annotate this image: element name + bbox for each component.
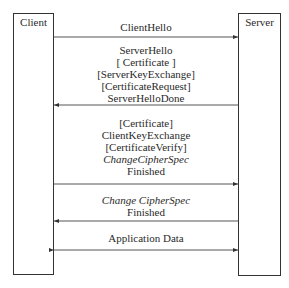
message-server-key-exchange: [ServerKeyExchange] — [54, 68, 238, 80]
message-server-hello-done: ServerHelloDone — [54, 92, 238, 104]
message-server-certificate: [ Certificate ] — [54, 56, 238, 68]
message-client-hello: ClientHello — [54, 21, 238, 33]
message-client-certificate: [Certificate] — [54, 117, 238, 129]
message-client-key-exchange: ClientKeyExchange — [54, 129, 238, 141]
message-server-change-cipher-spec: Change CipherSpec — [54, 194, 238, 206]
message-client-finished: Finished — [54, 165, 238, 177]
message-client-change-cipher-spec: ChangeCipherSpec — [54, 153, 238, 165]
message-labels: ClientHello ServerHello [ Certificate ] … — [54, 0, 238, 288]
message-application-data: Application Data — [54, 232, 238, 244]
message-server-finished: Finished — [54, 206, 238, 218]
message-certificate-verify: [CertificateVerify] — [54, 141, 238, 153]
message-server-hello: ServerHello — [54, 44, 238, 56]
message-certificate-request: [CertificateRequest] — [54, 80, 238, 92]
